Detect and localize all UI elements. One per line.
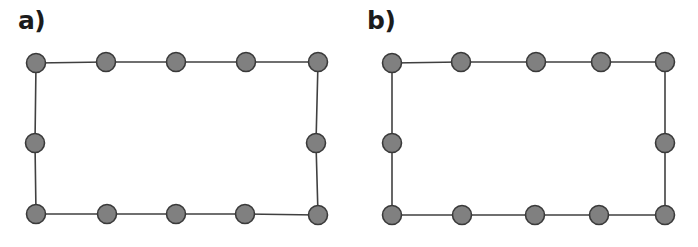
graph-node-top-2 [167, 53, 186, 72]
graph-node-bottom-left-corner [383, 206, 402, 225]
graph-node-top-2 [527, 53, 546, 72]
graph-node-top-1 [452, 53, 471, 72]
panel-b-nodes [383, 53, 675, 225]
graph-edge [392, 62, 461, 63]
graph-node-bottom-2 [526, 206, 545, 225]
graph-node-bottom-3 [590, 206, 609, 225]
graph-node-bottom-left-corner [27, 205, 46, 224]
graph-node-left-middle [26, 134, 45, 153]
graph-node-bottom-2 [167, 205, 186, 224]
graph-node-top-1 [97, 53, 116, 72]
graph-node-top-right-corner [309, 53, 328, 72]
graph-node-left-middle [383, 134, 402, 153]
panel-b: b) [349, 0, 698, 247]
panel-b-edges [392, 62, 665, 215]
panel-a: a) [0, 0, 349, 247]
panel-a-nodes [26, 53, 328, 225]
graph-edge [36, 62, 106, 63]
graph-node-bottom-1 [98, 205, 117, 224]
graph-node-top-3 [592, 53, 611, 72]
graph-node-top-right-corner [656, 53, 675, 72]
panel-a-graph [0, 0, 349, 247]
graph-node-top-3 [237, 53, 256, 72]
graph-edge [35, 63, 36, 143]
figure-canvas: a) b) [0, 0, 698, 247]
graph-edge [316, 143, 318, 215]
panel-b-graph [349, 0, 698, 247]
panel-a-edges [35, 62, 318, 215]
graph-node-bottom-1 [453, 206, 472, 225]
graph-edge [245, 214, 318, 215]
graph-node-bottom-right-corner [656, 206, 675, 225]
graph-node-bottom-right-corner [309, 206, 328, 225]
graph-node-right-middle [656, 134, 675, 153]
graph-edge [35, 143, 36, 214]
graph-node-bottom-3 [236, 205, 255, 224]
graph-node-top-left-corner [27, 54, 46, 73]
graph-node-right-middle [307, 134, 326, 153]
graph-edge [316, 62, 318, 143]
graph-node-top-left-corner [383, 54, 402, 73]
